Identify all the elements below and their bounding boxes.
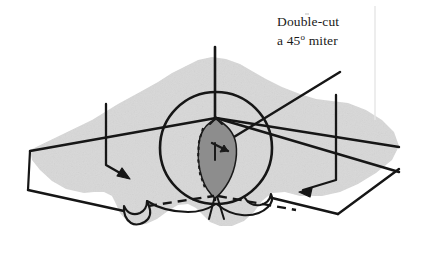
callout-label: Double-cut a 45o miter (277, 12, 417, 50)
callout-label-line-1: Double-cut (277, 12, 417, 31)
callout-label-line-2: a 45o miter (277, 31, 417, 50)
bottom-edge-right (272, 198, 338, 214)
bottom-edge-far-left (28, 151, 30, 190)
callout-label-line-2-prefix: a 45 (277, 33, 300, 48)
figure-root: Double-cut a 45o miter (0, 0, 427, 271)
callout-label-line-2-suffix: miter (305, 33, 338, 48)
